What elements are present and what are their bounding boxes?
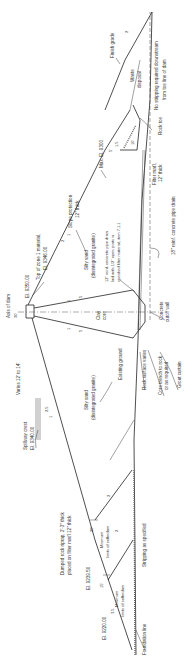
dam-outline bbox=[18, 12, 160, 650]
label-el-9239: El. 9239.50 bbox=[86, 566, 91, 590]
label-foundation-line: Foundation line bbox=[142, 623, 147, 655]
label-clay-core: Clay bbox=[96, 310, 101, 320]
label-dumped-riprap: Dumped rock riprap, 2'-3" thick bbox=[60, 512, 65, 575]
label-min-cofferdam-2: Minimum bbox=[114, 590, 119, 607]
label-crest-width: 30' bbox=[13, 313, 18, 318]
slope-downstream-shell-rise: 1 bbox=[66, 233, 71, 236]
label-spillway-crest-el: El. 9340.00 bbox=[30, 426, 35, 450]
label-silty-sand-downstream-note: (disintegrated granite) bbox=[91, 233, 96, 278]
label-pipe-drain-12-c: specified filter material, item 7.1.1 bbox=[116, 222, 121, 282]
crest bbox=[26, 305, 34, 318]
slope-toe-run: 1.5 bbox=[114, 141, 119, 147]
slope-downstream-core-run: 5 bbox=[78, 295, 83, 298]
slope-upstream-core-rise: 1 bbox=[66, 327, 71, 330]
label-concrete-cutoff-2: cutoff wall bbox=[165, 302, 170, 322]
label-min-cofferdam-1: Minimum bbox=[99, 531, 104, 548]
label-spillway-crest: Spillway crest bbox=[23, 421, 28, 450]
label-toe-5: 5' bbox=[108, 149, 113, 152]
label-finish-grade: Finish grade bbox=[110, 32, 115, 58]
label-silty-sand-upstream-note: (disintegrated granite) bbox=[91, 375, 96, 420]
label-berm-20: 20' bbox=[89, 527, 94, 532]
label-core-trench: Core trench to rock bbox=[158, 355, 163, 395]
dam-cross-section-diagram: Axis of dam 30' Varies 12' to 14' El. 93… bbox=[0, 0, 196, 668]
label-max-el: Max. El. 9300 bbox=[99, 139, 104, 168]
label-pipe-drain-12: 12" reinf. concrete pipe drain bbox=[104, 231, 109, 282]
slope-upstream-berm-run: 3.5 bbox=[110, 608, 115, 614]
cofferdam-1 bbox=[95, 470, 132, 520]
label-waste-disposal-2: disposal bbox=[137, 71, 142, 88]
label-clay-core-2: core bbox=[102, 311, 107, 320]
clay-core-downstream bbox=[34, 290, 133, 308]
existing-ground-upstream bbox=[110, 420, 134, 460]
label-grout-curtain: Grout curtain bbox=[177, 361, 182, 388]
label-filter-mat: Filter mat'l, bbox=[152, 163, 157, 185]
label-dumped-riprap-2: placed on filter mat'l 12" thick bbox=[67, 515, 72, 575]
label-berm-15: 15' bbox=[99, 583, 104, 588]
label-no-stripping-2: from toe line of dam bbox=[162, 59, 167, 100]
label-silty-sand-downstream: Silty sand bbox=[84, 250, 89, 270]
label-pipe-drain-12-b: laid with 1/2" open joints in bbox=[110, 235, 115, 282]
clay-core-upstream bbox=[34, 316, 133, 338]
label-rock-toe: Rock toe bbox=[158, 116, 163, 135]
label-min-cofferdam-2b: limits of cofferdam bbox=[120, 584, 125, 617]
slope-upstream-shell-rise: 1 bbox=[48, 415, 53, 418]
label-top-zone1-el: El. 9346.00 bbox=[43, 246, 48, 270]
label-slope-protection-thick: 12" thick bbox=[75, 200, 80, 218]
slope-upstream-shell-run: 2.5 bbox=[44, 406, 49, 412]
finish-grade-line bbox=[105, 12, 152, 110]
label-el-9220: El. 9220.00 bbox=[102, 616, 107, 640]
slope-upstream-core-run: 5 bbox=[78, 329, 83, 332]
cofferdam-2 bbox=[108, 540, 133, 580]
leader-lines bbox=[32, 58, 178, 650]
label-min-cofferdam-1b: limits of cofferdam bbox=[105, 525, 110, 558]
label-toe-top: 10' bbox=[130, 140, 135, 145]
label-slope-protection: Slope protection bbox=[68, 194, 73, 228]
label-crest-elevation: El. 9350.00 bbox=[25, 274, 30, 298]
label-silty-sand-upstream: Silty sand bbox=[84, 390, 89, 410]
label-no-stripping: No stripping required downstream bbox=[154, 41, 159, 110]
label-crest-varies: Varies 12' to 14' bbox=[16, 363, 21, 395]
label-axis-of-dam: Axis of dam bbox=[6, 294, 11, 318]
label-waste-disposal: Waste bbox=[130, 69, 135, 82]
label-pipe-drain-18: 18" reinf. concrete pipe drain bbox=[171, 196, 176, 255]
slope-cofferdam-2-run: 2 bbox=[114, 529, 119, 532]
slope-ratios: 5 1 5 1 2 1 2.5 1 3.5 2 2 2 1.5 bbox=[44, 30, 129, 614]
labels: Axis of dam 30' Varies 12' to 14' El. 93… bbox=[6, 32, 182, 655]
label-existing-ground: Existing ground bbox=[118, 348, 123, 380]
label-stripping: Stripping as specified bbox=[142, 523, 147, 567]
slope-downstream-core-rise: 1 bbox=[66, 299, 71, 302]
label-top-zone1: Top of zone 1 material, bbox=[36, 234, 41, 280]
slope-waste-run: 2 bbox=[124, 30, 129, 33]
label-rock-surface: Rock surface varies bbox=[142, 349, 147, 390]
label-filter-mat-2: 12" thick bbox=[158, 164, 163, 182]
slope-cofferdam-1-run: 2 bbox=[106, 494, 111, 497]
